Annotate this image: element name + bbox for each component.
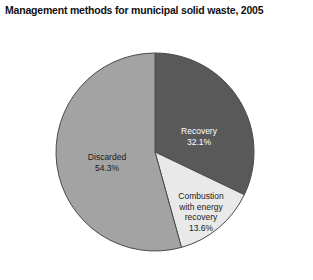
- pie-chart-figure: Management methods for municipal solid w…: [0, 0, 313, 280]
- pie-plot-area: Recovery 32.1% Discarded 54.3% Combustio…: [0, 0, 313, 280]
- pie-svg: [0, 0, 313, 280]
- pie-slices: [56, 53, 254, 251]
